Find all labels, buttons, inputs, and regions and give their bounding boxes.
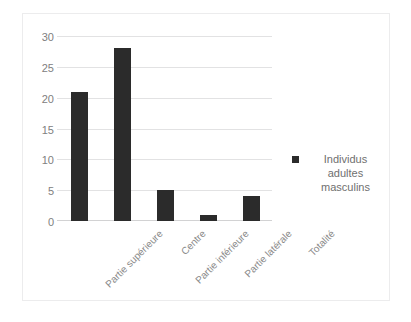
bar-partie-laterale[interactable] [200, 215, 217, 221]
y-tick-label-0: 0 [28, 217, 54, 228]
legend-label-line-1: Individus [324, 153, 367, 165]
y-tick-label-30: 30 [28, 32, 54, 43]
bar-centre[interactable] [114, 48, 131, 221]
x-tick-label-partie-laterale: Partie latérale [215, 228, 293, 306]
legend-swatch-icon [292, 156, 299, 163]
bar-partie-superieure[interactable] [71, 92, 88, 222]
y-tick-label-5: 5 [28, 186, 54, 197]
x-tick-label-totalite: Totalité [258, 228, 336, 306]
plot-area [57, 36, 272, 221]
x-axis-tick-labels: Partie supérieure Centre Partie inférieu… [57, 222, 272, 317]
bar-partie-inferieure[interactable] [157, 190, 174, 221]
legend-label-line-2: adultes [328, 167, 363, 179]
legend-item-individus-adultes-masculins[interactable]: Individusadultesmasculins [292, 152, 388, 194]
chart-frame: 30 25 20 15 10 5 0 [22, 13, 390, 301]
x-tick-label-partie-superieure: Partie supérieure [86, 228, 164, 306]
legend-item-label: Individusadultesmasculins [303, 152, 388, 194]
chart-root: 30 25 20 15 10 5 0 [0, 0, 411, 322]
y-axis-tick-labels: 30 25 20 15 10 5 0 [23, 37, 54, 222]
legend-label-line-3: masculins [321, 181, 370, 193]
x-tick-label-centre: Centre [129, 228, 207, 306]
y-tick-label-25: 25 [28, 62, 54, 73]
x-tick-label-partie-inferieure: Partie inférieure [172, 228, 250, 306]
y-tick-label-10: 10 [28, 155, 54, 166]
chart-legend: Individusadultesmasculins [292, 152, 388, 194]
y-tick-label-15: 15 [28, 124, 54, 135]
bars-layer [57, 36, 272, 221]
bar-totalite[interactable] [243, 196, 260, 221]
y-tick-label-20: 20 [28, 93, 54, 104]
